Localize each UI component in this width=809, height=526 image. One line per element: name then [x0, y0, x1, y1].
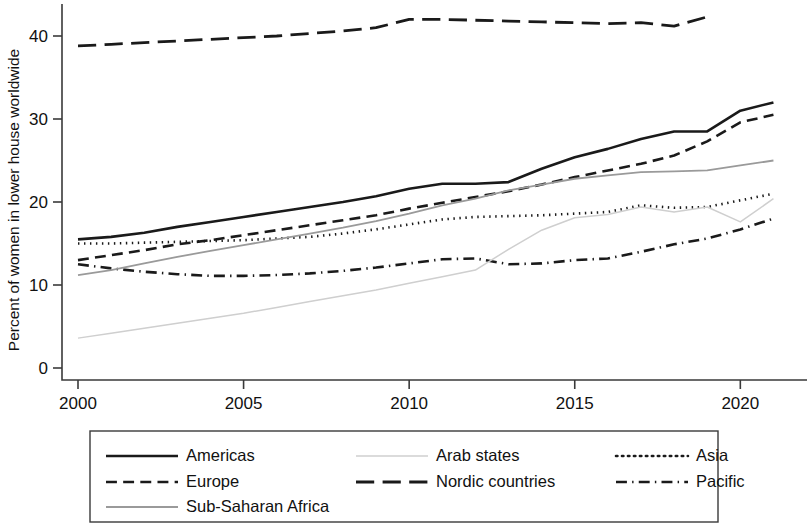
- y-tick-label: 20: [29, 193, 48, 212]
- x-tick-labels: 20002005201020152020: [59, 394, 759, 413]
- series-line-arab-states: [78, 199, 773, 338]
- legend-label-europe: Europe: [186, 472, 239, 490]
- legend-label-americas: Americas: [186, 446, 255, 464]
- data-series: [78, 17, 773, 338]
- legend-border: [90, 431, 718, 522]
- x-tick-label: 2005: [225, 394, 263, 413]
- x-tick-label: 2020: [721, 394, 759, 413]
- x-tick-label: 2000: [59, 394, 97, 413]
- axis-ticks: [53, 36, 740, 389]
- y-tick-label: 40: [29, 27, 48, 46]
- line-chart: Percent of women in lower house worldwid…: [0, 0, 809, 526]
- legend-label-arab-states: Arab states: [436, 446, 519, 464]
- y-tick-label: 30: [29, 110, 48, 129]
- x-tick-label: 2015: [556, 394, 594, 413]
- y-tick-label: 10: [29, 276, 48, 295]
- legend-label-sub-saharan-africa: Sub-Saharan Africa: [186, 497, 330, 515]
- x-tick-label: 2010: [390, 394, 428, 413]
- legend-label-asia: Asia: [696, 446, 729, 464]
- chart-legend: AmericasArab statesAsiaEuropeNordic coun…: [90, 431, 745, 522]
- figure-container: Percent of women in lower house worldwid…: [0, 0, 809, 526]
- series-line-sub-saharan-africa: [78, 161, 773, 276]
- y-axis-title-text: Percent of women in lower house worldwid…: [5, 49, 22, 351]
- legend-label-pacific: Pacific: [696, 472, 745, 490]
- series-line-asia: [78, 194, 773, 244]
- y-axis-title: Percent of women in lower house worldwid…: [5, 49, 22, 351]
- legend-label-nordic-countries: Nordic countries: [436, 472, 555, 490]
- y-tick-labels: 010203040: [29, 27, 48, 378]
- y-tick-label: 0: [39, 359, 48, 378]
- series-line-nordic-countries: [78, 17, 707, 46]
